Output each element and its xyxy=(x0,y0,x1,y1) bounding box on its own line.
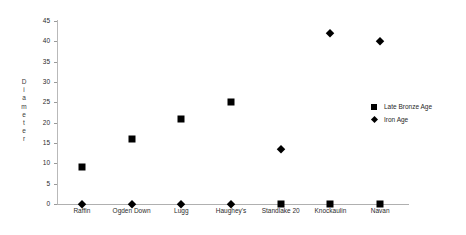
data-point xyxy=(277,201,284,208)
legend-label: Late Bronze Age xyxy=(384,103,432,111)
legend-label: Iron Age xyxy=(384,116,408,124)
y-tick-label: 0 xyxy=(46,200,50,207)
y-tick-label: 20 xyxy=(43,119,50,126)
chart-legend: Late Bronze AgeIron Age xyxy=(368,100,464,126)
plot-area xyxy=(57,21,405,204)
y-tick: 20 xyxy=(0,123,57,124)
y-tick-label: 40 xyxy=(43,37,50,44)
x-tick-label: Navan xyxy=(371,207,390,215)
y-tick: 15 xyxy=(0,143,57,144)
x-tick-label: Haughey's xyxy=(216,207,247,215)
y-tick: 10 xyxy=(0,163,57,164)
y-tick: 5 xyxy=(0,184,57,185)
x-tick-label: Lugg xyxy=(174,207,188,215)
x-tick-label: Knockaulin xyxy=(315,207,347,215)
legend-diamond-icon xyxy=(368,117,380,122)
y-tick: 30 xyxy=(0,82,57,83)
legend-item: Late Bronze Age xyxy=(368,100,464,113)
data-point xyxy=(376,37,384,45)
data-point xyxy=(78,164,85,171)
y-tick-label: 15 xyxy=(43,139,50,146)
data-point xyxy=(128,135,135,142)
legend-square-icon xyxy=(368,104,380,110)
y-tick: 25 xyxy=(0,102,57,103)
y-axis-title: D i a m e t e r xyxy=(18,78,30,144)
y-tick-label: 45 xyxy=(43,17,50,24)
y-tick-label: 5 xyxy=(46,180,50,187)
data-point xyxy=(327,29,335,37)
data-point xyxy=(377,201,384,208)
y-tick: 0 xyxy=(0,204,57,205)
y-tick-label: 35 xyxy=(43,58,50,65)
x-tick-label: Raffin xyxy=(73,207,90,215)
x-tick-label: Standlake 20 xyxy=(262,207,300,215)
legend-item: Iron Age xyxy=(368,113,464,126)
y-tick-label: 25 xyxy=(43,98,50,105)
data-point xyxy=(327,201,334,208)
data-point xyxy=(228,99,235,106)
y-tick-mark xyxy=(54,204,57,205)
data-point xyxy=(178,115,185,122)
y-tick-label: 10 xyxy=(43,159,50,166)
y-tick-label: 30 xyxy=(43,78,50,85)
y-tick: 45 xyxy=(0,21,57,22)
y-tick: 40 xyxy=(0,41,57,42)
scatter-chart: D i a m e t e r 051015202530354045 Raffi… xyxy=(0,0,466,235)
data-point xyxy=(277,145,285,153)
y-tick: 35 xyxy=(0,62,57,63)
